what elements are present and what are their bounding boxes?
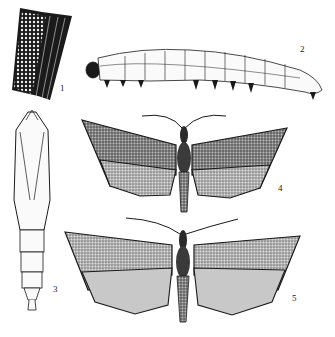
panel-label-5: 5 bbox=[292, 293, 297, 303]
pupa-drawing bbox=[14, 110, 50, 310]
panel-label-4: 4 bbox=[278, 183, 283, 193]
adult-moth-drawing-4 bbox=[82, 115, 287, 212]
panel-label-3: 3 bbox=[53, 284, 58, 294]
larva-drawing bbox=[86, 49, 322, 100]
illustration-plate bbox=[0, 0, 335, 337]
adult-moth-drawing-5 bbox=[65, 218, 300, 322]
panel-label-2: 2 bbox=[300, 44, 305, 54]
panel-label-1: 1 bbox=[60, 83, 65, 93]
